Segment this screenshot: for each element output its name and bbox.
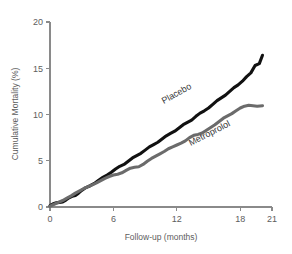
x-axis: 06121821 — [47, 207, 277, 224]
y-axis-ticks: 05101520 — [33, 17, 50, 212]
series-line-metroprolol — [50, 105, 262, 206]
series-label-placebo: Placebo — [160, 81, 193, 106]
chart-plot-area: 05101520 06121821 PlaceboMetroprolol Fol… — [0, 0, 292, 254]
x-axis-title: Follow-up (months) — [125, 232, 198, 242]
y-tick-label: 15 — [33, 64, 43, 74]
y-tick-label: 0 — [38, 202, 43, 212]
x-tick-label: 6 — [111, 214, 116, 224]
y-axis: 05101520 — [33, 17, 50, 212]
y-axis-title: Cumulative Mortality (%) — [10, 68, 20, 161]
series-inline-labels: PlaceboMetroprolol — [160, 81, 232, 148]
y-tick-label: 10 — [33, 110, 43, 120]
y-tick-label: 20 — [33, 17, 43, 27]
x-tick-label: 12 — [172, 214, 182, 224]
x-tick-label: 21 — [267, 214, 277, 224]
series-line-placebo — [50, 55, 262, 205]
x-tick-label: 0 — [47, 214, 52, 224]
x-axis-ticks: 06121821 — [47, 207, 277, 224]
series-label-metroprolol: Metroprolol — [187, 118, 232, 147]
x-tick-label: 18 — [235, 214, 245, 224]
data-series-group — [50, 55, 262, 206]
y-tick-label: 5 — [38, 156, 43, 166]
cumulative-mortality-chart: 05101520 06121821 PlaceboMetroprolol Fol… — [0, 0, 292, 254]
